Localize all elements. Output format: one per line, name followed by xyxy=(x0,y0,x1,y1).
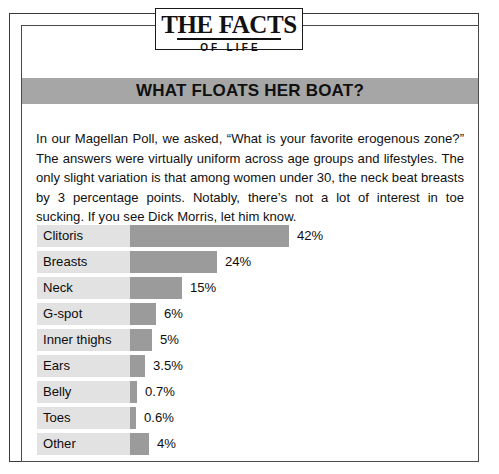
chart-row: Belly0.7% xyxy=(37,381,467,403)
row-label: G-spot xyxy=(43,303,82,325)
row-bar xyxy=(130,355,145,377)
page-title: WHAT FLOATS HER BOAT? xyxy=(22,78,478,104)
chart-row: Breasts24% xyxy=(37,251,467,273)
row-value: 0.7% xyxy=(145,381,175,403)
facts-of-life-logo: THE FACTS OF LIFE xyxy=(155,8,303,50)
row-value: 4% xyxy=(157,433,176,455)
card-content: WHAT FLOATS HER BOAT? In our Magellan Po… xyxy=(22,26,478,461)
row-bar xyxy=(130,329,152,351)
row-bar xyxy=(130,381,137,403)
poll-bar-chart: Clitoris42%Breasts24%Neck15%G-spot6%Inne… xyxy=(37,225,467,459)
logo-title: THE FACTS xyxy=(156,9,302,37)
row-value: 42% xyxy=(297,225,323,247)
page-root: WHAT FLOATS HER BOAT? In our Magellan Po… xyxy=(0,0,499,474)
chart-row: Clitoris42% xyxy=(37,225,467,247)
row-bar xyxy=(130,433,149,455)
row-label: Ears xyxy=(43,355,70,377)
heading-band: WHAT FLOATS HER BOAT? xyxy=(22,78,478,104)
row-value: 0.6% xyxy=(144,407,174,429)
row-label: Breasts xyxy=(43,251,87,273)
intro-paragraph: In our Magellan Poll, we asked, “What is… xyxy=(36,129,464,227)
row-bar xyxy=(130,251,217,273)
row-label: Other xyxy=(43,433,76,455)
row-label: Inner thighs xyxy=(43,329,111,351)
row-bar xyxy=(130,407,136,429)
row-value: 3.5% xyxy=(153,355,183,377)
row-label: Belly xyxy=(43,381,71,403)
row-label: Toes xyxy=(43,407,71,429)
row-bar xyxy=(130,303,156,325)
row-label: Neck xyxy=(43,277,73,299)
chart-row: Ears3.5% xyxy=(37,355,467,377)
chart-row: Inner thighs5% xyxy=(37,329,467,351)
row-bar xyxy=(130,225,289,247)
chart-row: Other4% xyxy=(37,433,467,455)
logo-divider xyxy=(177,38,281,40)
logo-subtitle: OF LIFE xyxy=(156,42,302,53)
row-value: 5% xyxy=(160,329,179,351)
chart-row: Neck15% xyxy=(37,277,467,299)
chart-row: G-spot6% xyxy=(37,303,467,325)
row-value: 6% xyxy=(164,303,183,325)
row-bar xyxy=(130,277,182,299)
row-label: Clitoris xyxy=(43,225,83,247)
chart-row: Toes0.6% xyxy=(37,407,467,429)
row-value: 24% xyxy=(225,251,251,273)
row-value: 15% xyxy=(190,277,216,299)
